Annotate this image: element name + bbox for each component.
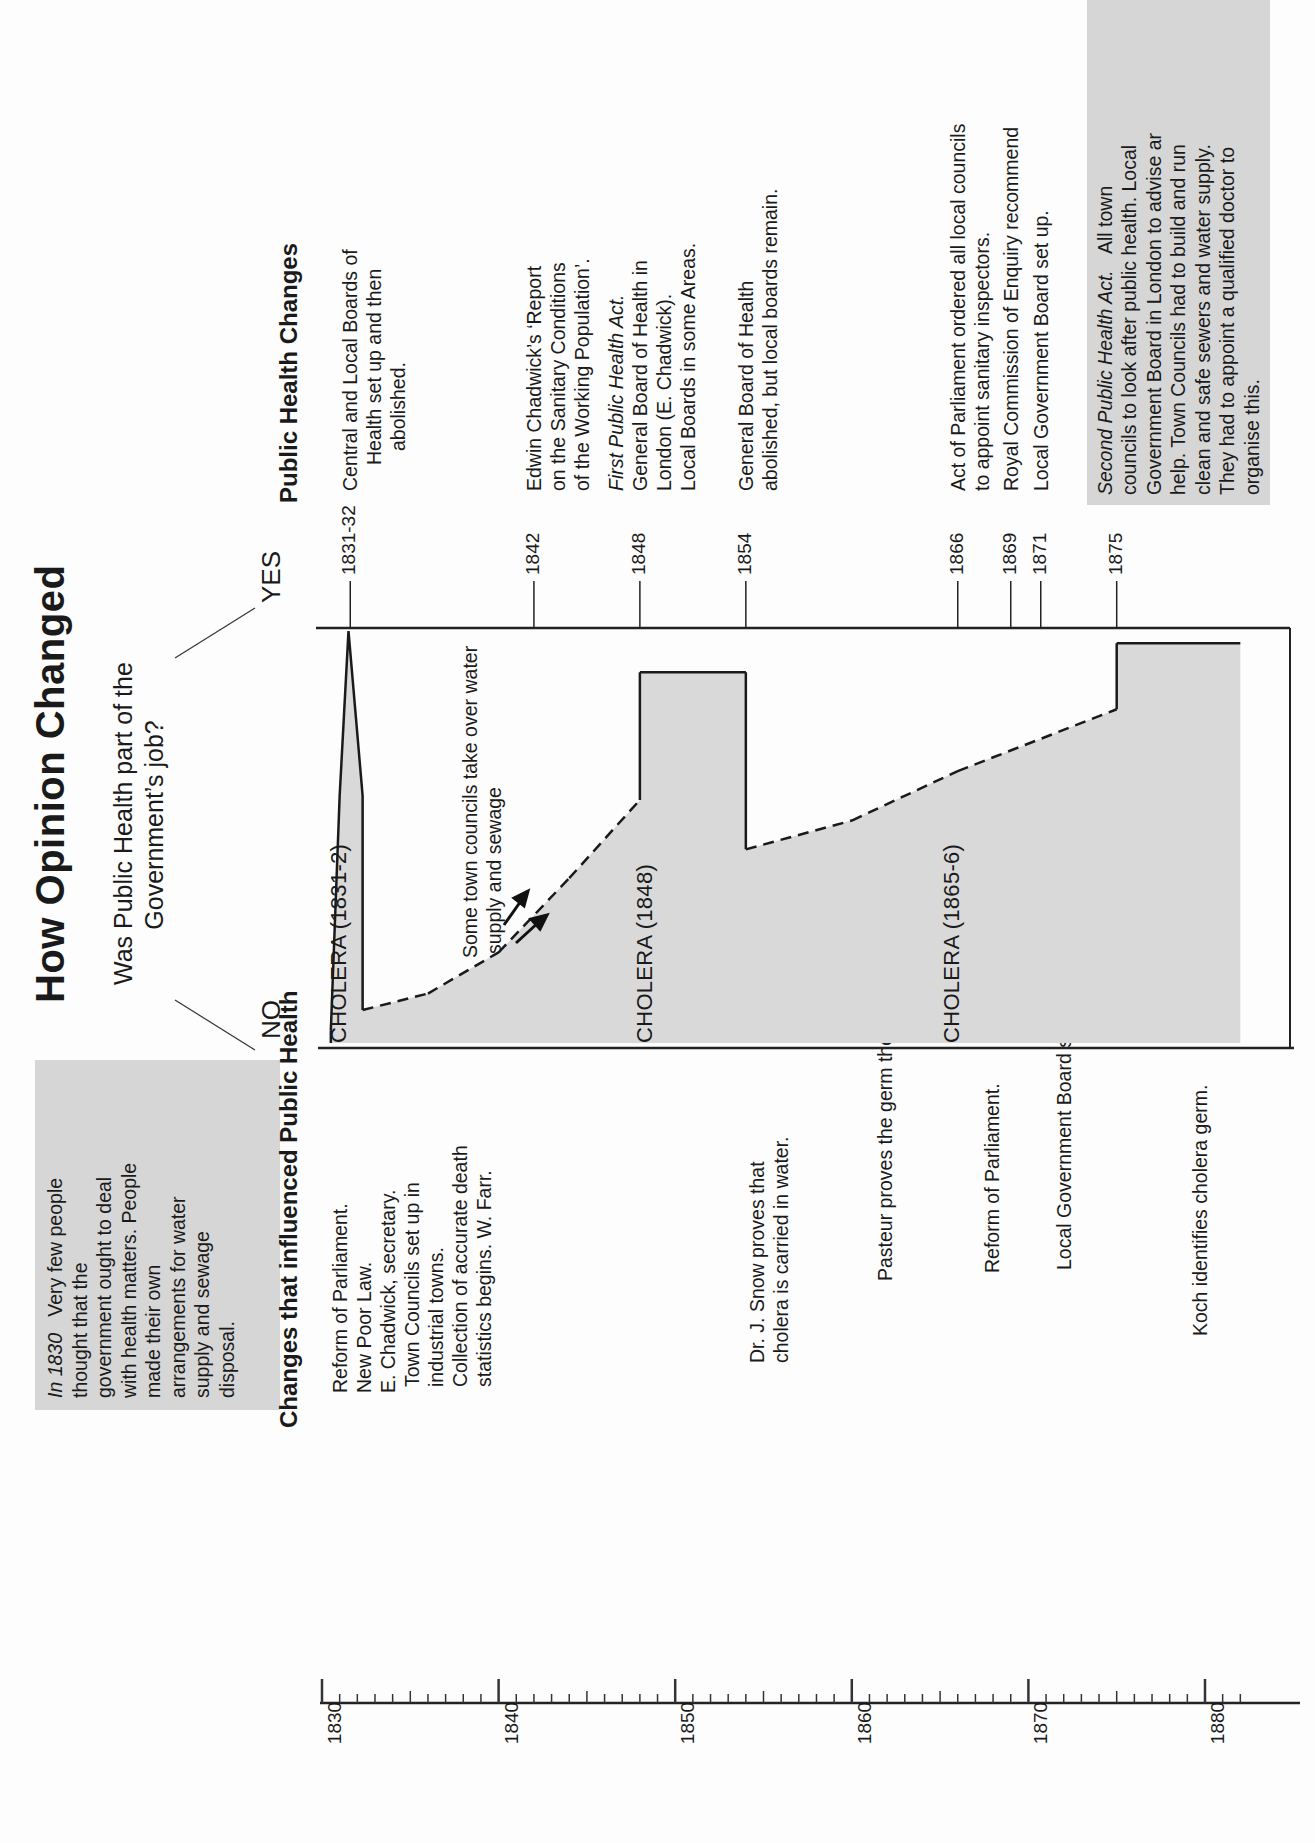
event-year-label: 1869 [999,533,1021,575]
event-line: councils to look after public health. Lo… [1117,0,1142,495]
event-line: Edwin Chadwick’s ‘Report [522,258,546,491]
cholera-1865-label: CHOLERA (1865-6) [939,844,965,1043]
yes-connector [175,608,255,658]
public-health-event: Act of Parliament ordered all local coun… [946,124,994,491]
event-line: Local Boards in some Areas. [676,243,700,491]
annotation-line: Some town councils take over water [458,646,482,958]
event-marker-ticks [316,581,1290,628]
cholera-1831-label: CHOLERA (1831-2) [326,844,352,1043]
question-line: Government’s job? [139,665,170,985]
town-councils-annotation: Some town councils take over water suppl… [458,646,506,958]
year-axis-label: 1850 [677,1702,699,1744]
event-line: help. Town Councils had to build and run [1166,0,1191,495]
page-title: How Opinion Changed [28,565,73,1003]
event-line: organise this. [1240,0,1265,495]
event-line: Central and Local Boards of [338,249,362,491]
event-year-label: 1875 [1105,533,1127,575]
right-panel-heading: Public Health Changes [275,243,303,503]
event-year-label: 1871 [1029,533,1051,575]
event-line: Royal Commission of Enquiry recommend [999,127,1023,491]
question-line: Was Public Health part of the [108,665,139,985]
event-year-label: 1866 [946,533,968,575]
no-label: NO [256,1000,287,1039]
public-health-event: Edwin Chadwick’s ‘Reporton the Sanitary … [522,258,594,491]
cholera-1848-label: CHOLERA (1848) [632,864,658,1043]
year-axis-label: 1870 [1030,1702,1052,1744]
event-year-label: 1842 [522,533,544,575]
event-line: General Board of Health [734,189,758,491]
year-axis-label: 1880 [1207,1702,1229,1744]
year-axis-ticks [322,1679,1240,1703]
no-connector [175,1000,255,1050]
public-health-event: Second Public Health Act. All towncounci… [1087,0,1271,505]
event-line: Health set up and then [362,249,386,491]
event-line: General Board of Health in [628,243,652,491]
public-health-event: First Public Health Act.General Board of… [604,243,700,491]
event-line: Act of Parliament ordered all local coun… [946,124,970,491]
event-year-label: 1848 [628,533,650,575]
year-axis-label: 1860 [854,1702,876,1744]
rotated-page: In 1830 Very few people thought that the… [0,0,1315,1843]
event-year-label: 1831-32 [338,505,360,575]
year-axis-label: 1840 [501,1702,523,1744]
event-line: abolished. [386,249,410,491]
event-line: They had to appoint a qualified doctor t… [1215,0,1240,495]
event-italic-title: First Public Health Act. [604,243,628,491]
yes-label: YES [256,551,287,603]
public-health-event: Royal Commission of Enquiry recommend [999,127,1023,491]
event-line: London (E. Chadwick). [652,243,676,491]
event-line: abolished, but local boards remain. [758,189,782,491]
event-italic-title: Second Public Health Act. [1094,270,1116,495]
question-text: Was Public Health part of the Government… [108,665,170,985]
public-health-event: General Board of Healthabolished, but lo… [734,189,782,491]
event-year-label: 1854 [734,533,756,575]
event-line: to appoint sanitary inspectors. [970,124,994,491]
event-line: of the Working Population’. [570,258,594,491]
event-line: Local Government Board set up. [1029,210,1053,491]
public-health-event: Local Government Board set up. [1029,210,1053,491]
public-health-event: Central and Local Boards ofHealth set up… [338,249,410,491]
year-axis-label: 1830 [324,1702,346,1744]
event-line: on the Sanitary Conditions [546,258,570,491]
annotation-line: supply and sewage [482,646,506,958]
event-line: Government Board in London to advise ar [1142,0,1167,495]
event-line: clean and safe sewers and water supply. [1191,0,1216,495]
